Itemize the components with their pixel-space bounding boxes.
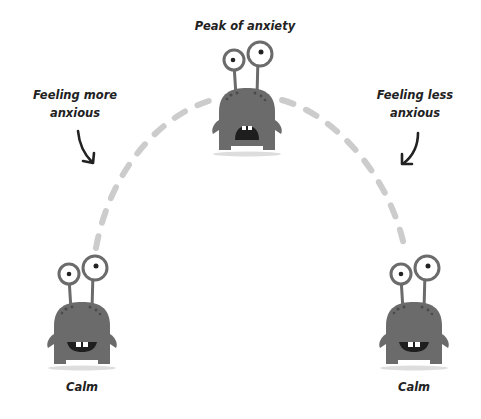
rising-label-line2: anxious — [20, 104, 130, 122]
anxious-monster-icon — [207, 38, 287, 158]
rising-label: Feeling more anxious — [20, 86, 130, 122]
falling-label-line1: Feeling less — [360, 86, 470, 104]
curved-arrow-down-icon — [72, 128, 102, 168]
peak-label-text: Peak of anxiety — [180, 17, 310, 35]
calm-label-right: Calm — [384, 378, 444, 396]
calm-label-left: Calm — [52, 378, 112, 396]
anxiety-curve-diagram: Peak of anxiety Feeling more anxious Fee… — [0, 0, 481, 419]
calm-monster-icon — [42, 252, 122, 372]
calm-monster-icon — [374, 252, 454, 372]
calm-label-left-text: Calm — [52, 378, 112, 396]
rising-label-line1: Feeling more — [20, 86, 130, 104]
falling-label-line2: anxious — [360, 104, 470, 122]
calm-label-right-text: Calm — [384, 378, 444, 396]
curved-arrow-down-icon — [396, 130, 426, 170]
peak-label: Peak of anxiety — [180, 17, 310, 35]
falling-label: Feeling less anxious — [360, 86, 470, 122]
